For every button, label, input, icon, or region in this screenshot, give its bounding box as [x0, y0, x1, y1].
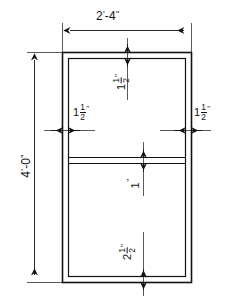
drawing-canvas [0, 0, 229, 302]
feet-tick: ' [103, 9, 105, 19]
inch-tick: " [19, 154, 29, 157]
fraction-whole: 1 [194, 107, 201, 118]
fraction-denominator: 2 [201, 113, 207, 122]
measure-value: 1 [130, 182, 141, 188]
inch-unit-mark: " [86, 105, 89, 113]
middle-rail [69, 158, 186, 164]
fraction-denominator: 2 [121, 78, 130, 84]
fraction-denominator: 2 [80, 113, 86, 122]
width-feet-value: 2 [96, 9, 103, 23]
fraction-expression: 1 1 2 " [73, 103, 88, 121]
fraction-numerator: 1 [80, 103, 86, 112]
width-inches-value: 4 [109, 9, 116, 23]
fraction-stack: 1 2 [118, 247, 136, 253]
inch-unit-mark: " [126, 179, 134, 182]
fraction-expression: 1 1 2 " [112, 75, 130, 90]
fraction-expression: 1 1 2 " [194, 103, 209, 121]
fraction-whole: 1 [116, 83, 127, 90]
fraction-stack: 1 2 [112, 77, 130, 83]
fraction-expression: 2 1 2 " [118, 245, 136, 260]
overall-width-label: 2'-4" [96, 10, 119, 22]
inch-tick: " [116, 9, 119, 19]
feet-tick: ' [19, 169, 29, 171]
inch-unit-mark: " [119, 244, 127, 247]
fraction-denominator: 2 [127, 248, 136, 254]
overall-height-label: 4'-0" [20, 136, 32, 196]
plain-expression: 1" [130, 180, 141, 189]
fraction-whole: 2 [122, 253, 133, 260]
height-inches-value: 0 [19, 158, 33, 165]
right-stile-thickness-label: 1 1 2 " [194, 103, 209, 122]
fraction-whole: 1 [73, 107, 80, 118]
middle-rail-thickness-label: 1" [126, 164, 142, 204]
inch-unit-mark: " [113, 74, 121, 77]
left-stile-thickness-label: 1 1 2 " [73, 103, 88, 122]
fraction-numerator: 1 [118, 248, 127, 254]
inch-unit-mark: " [207, 105, 210, 113]
height-feet-value: 4 [19, 171, 33, 178]
fraction-numerator: 1 [201, 103, 207, 112]
top-dimension-group [63, 23, 192, 52]
top-rail-thickness-label: 1 1 2 " [112, 60, 131, 104]
fraction-stack: 1 2 [201, 103, 207, 121]
dimension-drawing: 2'-4" 4'-0" 1 1 2 " 1 1 2 " [0, 0, 229, 302]
fraction-stack: 1 2 [80, 103, 86, 121]
fraction-numerator: 1 [112, 78, 121, 84]
bottom-rail-thickness-label: 2 1 2 " [118, 229, 137, 275]
